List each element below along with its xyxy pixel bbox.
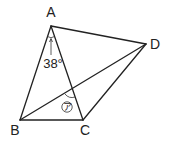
vertex-label-d: D [150,36,160,52]
vertex-label-a: A [46,4,56,20]
segment-ab [20,26,51,120]
angle-mark-a: ア [63,102,72,112]
segment-cd [83,44,146,120]
vertex-label-b: B [10,122,19,138]
geometry-diagram: ア 38° A B C D [0,0,172,144]
vertex-label-c: C [80,122,90,138]
segment-ad [51,26,146,44]
angle-value-label: 38° [43,56,63,71]
segment-bd [20,44,146,120]
angle-arc-intersection [65,94,75,98]
